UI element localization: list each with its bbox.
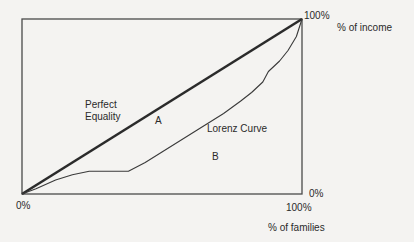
right-zero-tick-label: 0% [309,188,323,199]
perfect-equality-label-line2: Equality [85,111,121,122]
origin-tick-label: 0% [16,200,30,211]
y-max-tick-label: 100% [304,10,330,21]
area-b-label: B [212,151,219,162]
lorenz-chart [0,0,414,242]
area-a-label: A [155,115,162,126]
perfect-equality-line [22,19,302,194]
x-axis-title: % of families [268,222,325,233]
perfect-equality-label-line1: Perfect [85,99,117,110]
y-axis-title: % of income [337,22,392,33]
x-max-tick-label: 100% [286,202,312,213]
lorenz-curve-label: Lorenz Curve [207,123,267,134]
